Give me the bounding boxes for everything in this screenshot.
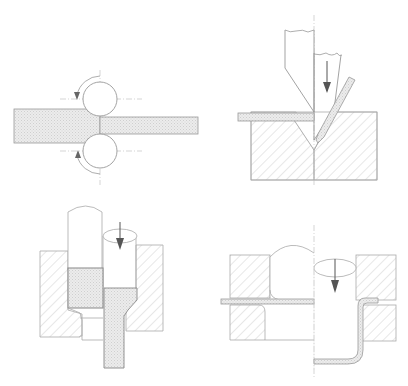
lower-roll [83,134,117,168]
lower-block-right [362,305,396,341]
sheet-flat [238,113,314,121]
billet [68,268,103,308]
drawing-panel [221,225,396,378]
punch [285,30,314,112]
extrusion-panel [40,206,163,368]
strip-thin [100,117,198,134]
punch-left [68,206,102,270]
lower-block-left [230,305,265,340]
bending-panel [238,15,377,185]
upper-block-right [356,255,396,300]
rolling-panel [14,70,198,185]
sheet-flat [221,299,314,304]
punch-left [270,245,314,298]
upper-roll [83,82,117,116]
metal-forming-diagram [0,0,408,386]
upper-block-left [230,255,270,298]
strip-thick [14,109,100,143]
